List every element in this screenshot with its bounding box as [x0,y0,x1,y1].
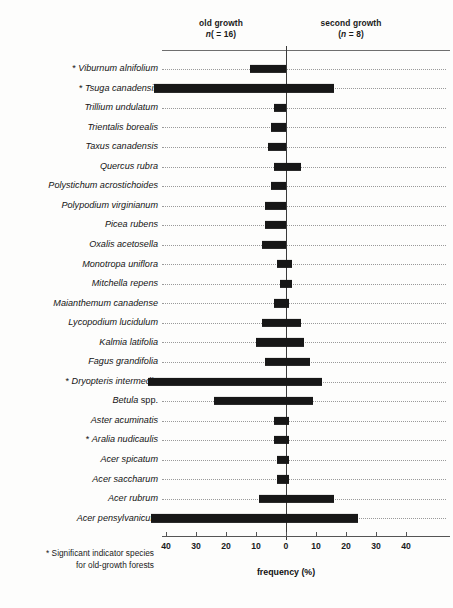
axis-tick-label: 0 [274,541,298,551]
species-label: Mitchella repens [92,274,158,294]
chart-row: Acer pensylvanicum [0,509,453,529]
frequency-diverging-bar-chart: old growth n( = 16) second growth (n = 8… [0,0,453,608]
chart-row: Polypodium virginianum [0,196,453,216]
species-label: Acer rubrum [108,489,158,509]
frequency-bar [259,495,334,503]
leader-dots [162,342,446,343]
axis-tick-label: 30 [364,541,388,551]
footnote: * Significant indicator species for old-… [14,548,154,571]
leader-dots [162,127,446,128]
species-label: Trillium undulatum [84,98,158,118]
chart-row: Monotropa uniflora [0,255,453,275]
group-header-second-growth-n: (n = 8) [286,29,416,40]
chart-row: Fagus grandifolia [0,352,453,372]
chart-row: Acer saccharum [0,470,453,490]
bottom-axis-line [162,536,450,537]
species-label: Monotropa uniflora [82,255,158,275]
frequency-bar [268,143,286,151]
species-label: Kalmia latifolia [99,333,158,353]
axis-tick [316,532,317,536]
frequency-bar [274,299,289,307]
frequency-bar [271,182,286,190]
frequency-bar [214,397,313,405]
axis-tick [256,532,257,536]
leader-dots [162,69,446,70]
chart-row: Mitchella repens [0,274,453,294]
axis-tick [376,532,377,536]
group-header-old-growth-n: n( = 16) [156,29,286,40]
species-label: Betula spp. [112,391,158,411]
footnote-line-2: for old-growth forests [14,560,154,572]
chart-row: * Tsuga canadensis [0,79,453,99]
frequency-bar [250,65,286,73]
leader-dots [162,323,446,324]
frequency-bar [148,378,322,386]
leader-dots [162,460,446,461]
species-label: * Dryopteris intermedia [66,372,159,392]
leader-dots [162,206,446,207]
species-label: Taxus canadensis [86,137,158,157]
axis-tick-label: 30 [184,541,208,551]
axis-tick [346,532,347,536]
frequency-bar [265,221,286,229]
leader-dots [162,264,446,265]
species-label: Trientalis borealis [87,118,158,138]
species-label: Aster acuminatis [91,411,158,431]
axis-tick [286,532,287,536]
axis-tick-label: 20 [214,541,238,551]
chart-row: Polystichum acrostichoides [0,176,453,196]
axis-tick [196,532,197,536]
axis-tick-label: 20 [334,541,358,551]
leader-dots [162,284,446,285]
leader-dots [162,147,446,148]
leader-dots [162,245,446,246]
chart-row: Betula spp. [0,391,453,411]
leader-dots [162,303,446,304]
frequency-bar [256,338,304,346]
species-label: Lycopodium lucidulum [68,313,158,333]
axis-tick [226,532,227,536]
species-label: Quercus rubra [100,157,158,177]
chart-row: Taxus canadensis [0,137,453,157]
leader-dots [162,167,446,168]
frequency-bar [277,475,289,483]
chart-row: * Viburnum alnifolium [0,59,453,79]
chart-row: Trientalis borealis [0,118,453,138]
chart-row: Aster acuminatis [0,411,453,431]
chart-row: Lycopodium lucidulum [0,313,453,333]
leader-dots [162,421,446,422]
frequency-bar [274,162,301,170]
leader-dots [162,479,446,480]
frequency-bar [274,436,289,444]
species-label: * Aralia nudicaulis [86,430,158,450]
species-label: Polypodium virginianum [61,196,158,216]
frequency-bar [265,202,286,210]
footnote-line-1: * Significant indicator species [14,548,154,560]
species-label: Acer saccharum [92,470,158,490]
axis-tick [166,532,167,536]
group-header-second-growth-label: second growth [286,18,416,29]
frequency-bar [274,104,286,112]
frequency-bar [154,84,334,92]
frequency-bar [277,456,289,464]
axis-title: frequency (%) [206,567,366,577]
chart-row: * Dryopteris intermedia [0,372,453,392]
species-label: Acer pensylvanicum [77,509,158,529]
top-axis-rule [162,50,450,51]
chart-row: Quercus rubra [0,157,453,177]
species-label: Fagus grandifolia [88,352,158,372]
frequency-bar [262,241,286,249]
frequency-bar [271,123,286,131]
axis-tick [406,532,407,536]
axis-tick-label: 40 [154,541,178,551]
axis-tick-label: 40 [394,541,418,551]
frequency-bar [280,280,292,288]
leader-dots [162,225,446,226]
frequency-bar [274,417,289,425]
group-header-second-growth: second growth (n = 8) [286,18,416,40]
chart-row: Picea rubens [0,215,453,235]
species-label: Maianthemum canadense [53,294,158,314]
axis-tick-label: 10 [304,541,328,551]
frequency-bar [262,319,301,327]
chart-row: * Aralia nudicaulis [0,430,453,450]
